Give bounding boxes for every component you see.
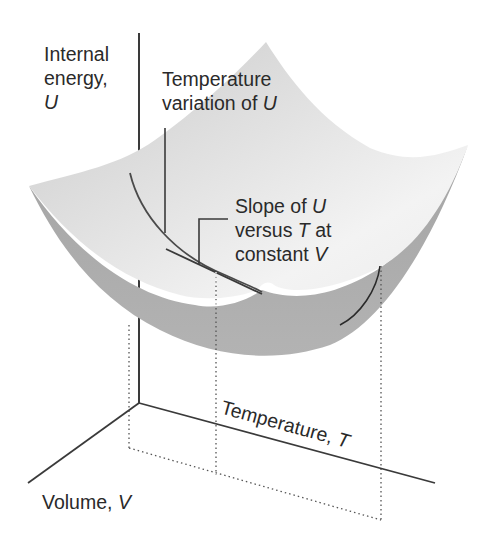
v-axis-text: Volume, [42,491,118,513]
diagram-canvas: Internal energy, U Temperature variation… [0,0,484,553]
u-symbol: U [44,91,58,113]
temp-variation-label: Temperature variation of U [162,67,277,115]
slope-label: Slope of U versus T at constant V [235,194,331,266]
slope-line2-suffix: at [310,219,332,241]
t-symbol: T [298,219,310,241]
u-axis-label-line1: Internal [44,42,109,66]
v-axis-label: Volume, V [42,490,131,514]
u-symbol: U [312,195,326,217]
u-axis-label: Internal energy, U [44,42,109,114]
temp-variation-line1: Temperature [162,67,277,91]
slope-line2: versus [235,219,298,241]
temp-variation-line2: variation of [162,92,263,114]
slope-line3: constant [235,243,314,265]
v-symbol: V [314,243,327,265]
v-axis-line [28,403,139,483]
v-symbol: V [118,491,131,513]
slope-line1: Slope of [235,195,312,217]
u-symbol: U [263,92,277,114]
u-axis-label-line2: energy, [44,66,109,90]
